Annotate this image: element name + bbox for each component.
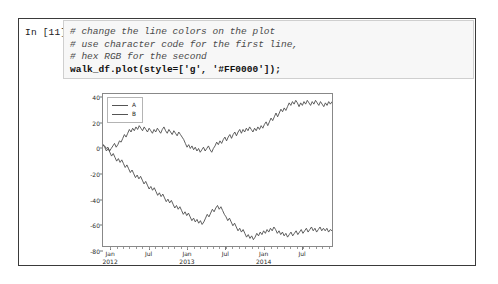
notebook-cell: In [11]: # change the line colors on the… [18, 18, 476, 266]
x-tick-label: Jan 2012 [102, 250, 117, 265]
x-tick-mark-minor [297, 247, 298, 249]
x-tick-mark-minor [187, 247, 188, 249]
code-line-4: walk_df.plot(style=['g', '#FF0000']); [70, 64, 281, 75]
x-tick-mark-minor [219, 247, 220, 249]
x-tick-mark-minor [168, 247, 169, 249]
code-editor[interactable]: # change the line colors on the plot # u… [63, 20, 474, 79]
x-tick-mark-minor [174, 247, 175, 249]
x-axis: Jan 2012JulJan 2013JulJan 2014Jul [102, 247, 333, 275]
legend-label-a: A [132, 101, 136, 110]
x-tick-mark-minor [277, 247, 278, 249]
code-line-1: # change the line colors on the plot [70, 26, 275, 37]
plot-axes: A B [102, 93, 333, 247]
x-tick-mark-minor [271, 247, 272, 249]
code-line-3: # hex RGB for the second [70, 51, 207, 62]
x-tick-mark-minor [117, 247, 118, 249]
legend-entry-a: A [112, 101, 136, 110]
x-tick-mark-minor [284, 247, 285, 249]
y-tick-label: -60 [70, 222, 100, 229]
x-tick-mark-minor [239, 247, 240, 249]
x-tick-mark-minor [123, 247, 124, 249]
x-tick-mark-minor [303, 247, 304, 249]
x-tick-mark-minor [194, 247, 195, 249]
legend-label-b: B [132, 110, 136, 119]
x-tick-mark-minor [129, 247, 130, 249]
x-tick-label: Jan 2014 [256, 250, 271, 265]
x-tick-label: Jan 2013 [179, 250, 194, 265]
legend-swatch-b [112, 114, 128, 115]
y-tick-label: -80 [70, 248, 100, 255]
x-tick-mark-minor [329, 247, 330, 249]
x-tick-label: Jul [222, 250, 229, 258]
x-tick-mark-minor [309, 247, 310, 249]
x-tick-label: Jul [145, 250, 152, 258]
code-text: # change the line colors on the plot # u… [70, 26, 298, 76]
matplotlib-figure: 40200-20-40-60-80 A B Jan 20 [69, 89, 399, 264]
x-tick-mark-minor [258, 247, 259, 249]
series-line-b [103, 145, 332, 240]
y-tick-label: 0 [70, 145, 100, 152]
x-tick-mark-minor [213, 247, 214, 249]
y-tick-label: 20 [70, 119, 100, 126]
x-tick-label: Jul [298, 250, 305, 258]
x-tick-mark-minor [200, 247, 201, 249]
x-tick-mark-minor [232, 247, 233, 249]
x-tick-mark-minor [149, 247, 150, 249]
x-tick-mark-minor [110, 247, 111, 249]
y-tick-label: -20 [70, 171, 100, 178]
x-tick-mark-minor [322, 247, 323, 249]
legend: A B [107, 97, 143, 123]
x-tick-mark-minor [155, 247, 156, 249]
x-tick-mark-minor [207, 247, 208, 249]
x-tick-mark-minor [142, 247, 143, 249]
y-tick-label: 40 [70, 94, 100, 101]
legend-swatch-a [112, 105, 128, 106]
x-tick-mark-minor [316, 247, 317, 249]
code-line-2: # use character code for the first line, [70, 39, 298, 50]
x-tick-mark-minor [226, 247, 227, 249]
x-tick-mark-minor [181, 247, 182, 249]
x-tick-mark-minor [136, 247, 137, 249]
x-tick-mark-minor [290, 247, 291, 249]
x-tick-mark-minor [264, 247, 265, 249]
screenshot-root: In [11]: # change the line colors on the… [0, 0, 498, 284]
x-tick-mark-minor [245, 247, 246, 249]
cell-output-area: 40200-20-40-60-80 A B Jan 20 [19, 79, 475, 265]
code-input-row: In [11]: # change the line colors on the… [19, 19, 475, 79]
x-tick-mark-minor [252, 247, 253, 249]
legend-entry-b: B [112, 110, 136, 119]
y-tick-label: -40 [70, 196, 100, 203]
x-tick-mark-minor [162, 247, 163, 249]
y-axis: 40200-20-40-60-80 [69, 93, 100, 247]
